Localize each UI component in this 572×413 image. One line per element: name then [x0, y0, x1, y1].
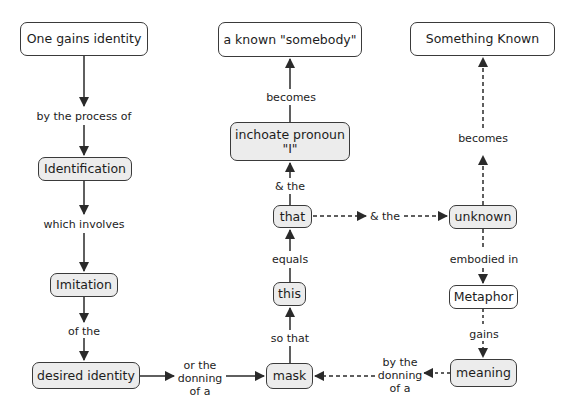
node-meaning[interactable]: meaning: [450, 359, 517, 387]
node-that[interactable]: that: [273, 205, 312, 228]
link-label-of-the: of the: [67, 325, 101, 338]
node-something-known[interactable]: Something Known: [410, 22, 555, 56]
link-label-or-the-donning-of-a: or the donning of a: [177, 359, 224, 398]
node-known-somebody[interactable]: a known "somebody": [218, 22, 362, 57]
link-label-gains: gains: [468, 328, 499, 341]
node-identification[interactable]: Identification: [38, 157, 132, 181]
node-mask[interactable]: mask: [266, 363, 313, 389]
link-label-equals: equals: [271, 253, 309, 266]
link-label-by-the-donning-of-a: by the donning of a: [377, 356, 424, 395]
link-label-and-the-up: & the: [274, 180, 306, 193]
node-this[interactable]: this: [273, 282, 306, 306]
node-one-gains-identity[interactable]: One gains identity: [20, 22, 148, 56]
link-label-becomes-middle: becomes: [265, 91, 317, 104]
link-label-by-the-process-of: by the process of: [36, 110, 133, 123]
link-label-so-that: so that: [270, 332, 310, 345]
node-metaphor[interactable]: Metaphor: [449, 285, 518, 309]
node-desired-identity[interactable]: desired identity: [32, 362, 140, 389]
link-label-which-involves: which involves: [43, 218, 126, 231]
link-label-embodied-in: embodied in: [449, 253, 520, 266]
link-label-and-the-right: & the: [369, 210, 401, 223]
node-unknown[interactable]: unknown: [449, 205, 517, 229]
node-imitation[interactable]: Imitation: [50, 273, 118, 297]
link-label-becomes-right: becomes: [457, 132, 509, 145]
node-inchoate-pronoun[interactable]: inchoate pronoun "I": [230, 122, 350, 161]
